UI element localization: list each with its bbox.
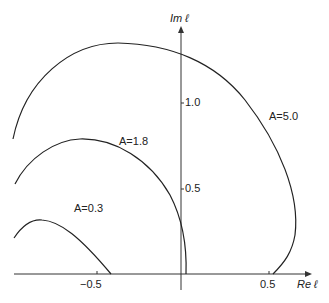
chart-root: Im ℓ Re ℓ −0.5 0.5 1.0 0.5 A=0.3 A=1.8 A… <box>0 0 329 303</box>
plot-area <box>0 0 329 303</box>
curve-label-a18: A=1.8 <box>119 135 148 147</box>
y-axis-label: Im ℓ <box>170 12 189 24</box>
curve-a03 <box>14 220 111 274</box>
curve-label-a03: A=0.3 <box>74 202 103 214</box>
tick-label-y-05: 0.5 <box>185 182 200 194</box>
tick-label-x-pos: 0.5 <box>260 278 275 290</box>
curve-a50 <box>13 43 296 274</box>
tick-label-x-neg: −0.5 <box>80 278 102 290</box>
curve-label-a50: A=5.0 <box>269 110 298 122</box>
tick-label-y-1: 1.0 <box>185 96 200 108</box>
x-axis-arrow-icon <box>305 271 312 277</box>
y-axis-arrow-icon <box>178 26 184 33</box>
x-axis-label: Re ℓ <box>297 278 318 290</box>
